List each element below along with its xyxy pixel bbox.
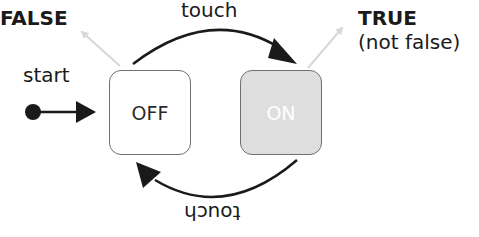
state-diagram: FALSE TRUE (not false) start touch touch… bbox=[0, 0, 479, 237]
faint-arrow-to-false-icon bbox=[82, 32, 120, 66]
state-on: ON bbox=[240, 70, 322, 155]
state-off: OFF bbox=[109, 70, 191, 155]
transition-arrow-off-to-on-icon bbox=[133, 30, 297, 64]
true-note-label: (not false) bbox=[358, 32, 460, 52]
state-off-label: OFF bbox=[132, 102, 169, 124]
true-label: TRUE bbox=[358, 8, 417, 28]
start-arrow-icon bbox=[25, 101, 96, 123]
start-label: start bbox=[23, 65, 70, 85]
false-label: FALSE bbox=[0, 8, 68, 28]
transition-arrow-on-to-off-icon bbox=[136, 160, 297, 197]
state-on-label: ON bbox=[266, 102, 295, 124]
transition-label-top: touch bbox=[181, 0, 237, 20]
transition-label-bottom: touch bbox=[184, 203, 240, 223]
faint-arrow-to-true-icon bbox=[308, 28, 342, 68]
